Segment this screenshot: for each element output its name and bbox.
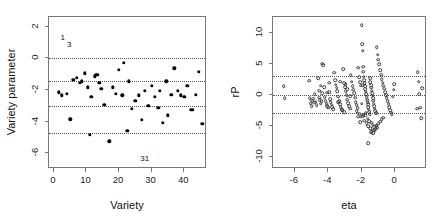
x-tick (53, 168, 54, 172)
data-point (173, 67, 176, 70)
data-point (147, 104, 150, 107)
data-point (378, 69, 382, 73)
y-tick-label: 0 (254, 91, 264, 96)
data-point (75, 76, 78, 79)
data-point (169, 93, 172, 96)
data-point (391, 95, 395, 99)
figure-container: 1331 01020304020-2-4-6 Variety Variety p… (0, 0, 439, 224)
data-point (134, 99, 137, 102)
data-point (65, 92, 68, 95)
data-point (361, 65, 365, 69)
x-axis-title-left: Variety (110, 200, 143, 211)
data-point (150, 84, 153, 87)
y-tick-label: 0 (30, 55, 40, 60)
data-point (350, 80, 354, 84)
data-point (346, 87, 350, 91)
y-tick (269, 32, 273, 33)
panel-variety-parameter: 1331 01020304020-2-4-6 Variety Variety p… (0, 0, 219, 224)
plot-box-left: 1331 (48, 16, 206, 168)
data-point (197, 70, 200, 73)
data-point (88, 133, 91, 136)
data-point (83, 72, 86, 75)
data-point (379, 73, 383, 77)
annotation-3: 3 (67, 41, 71, 49)
data-point (166, 113, 169, 116)
y-tick-label: -5 (254, 120, 264, 128)
y-tick-label: 5 (254, 60, 264, 65)
data-point (310, 105, 314, 109)
data-point (186, 84, 189, 87)
data-point (315, 103, 319, 107)
reference-line-2 (49, 106, 205, 107)
data-point (357, 66, 361, 70)
y-tick-label: -4 (30, 116, 40, 124)
data-point (165, 79, 168, 82)
data-point (130, 107, 133, 110)
x-tick-label: 30 (145, 175, 156, 185)
x-tick (394, 168, 395, 172)
y-tick-label: -10 (254, 149, 264, 163)
x-tick-label: -6 (290, 175, 298, 185)
data-point (282, 85, 286, 89)
data-point (332, 71, 336, 75)
x-tick (183, 168, 184, 172)
data-point (307, 79, 311, 83)
data-point (316, 77, 320, 81)
panel-rp-eta: -6-4-201050-5-10 eta rP (219, 0, 439, 224)
plot-box-right (272, 16, 426, 168)
data-point (348, 94, 352, 98)
data-point (420, 86, 424, 90)
data-point (321, 92, 325, 96)
data-point (336, 95, 340, 99)
y-tick (269, 125, 273, 126)
x-tick-label: 0 (392, 175, 397, 185)
x-tick-label: -2 (356, 175, 364, 185)
data-point (364, 111, 368, 115)
data-point (200, 122, 203, 125)
data-point (98, 81, 101, 84)
x-tick (85, 168, 86, 172)
data-point (80, 79, 83, 82)
data-point (122, 61, 125, 64)
data-point (117, 68, 120, 71)
data-point (99, 87, 102, 90)
y-tick (269, 63, 273, 64)
data-point (182, 95, 185, 98)
y-tick (269, 94, 273, 95)
y-tick (45, 152, 49, 153)
data-point (60, 94, 63, 97)
data-point (161, 121, 164, 124)
x-tick-label: 40 (178, 175, 189, 185)
y-tick (45, 121, 49, 122)
data-point (416, 70, 420, 74)
data-point (114, 92, 117, 95)
data-point (377, 58, 381, 62)
data-point (319, 84, 323, 88)
data-point (342, 67, 346, 71)
data-point (392, 88, 396, 92)
data-point (158, 89, 161, 92)
y-tick (45, 26, 49, 27)
data-point (108, 140, 111, 143)
data-point (111, 86, 114, 89)
data-point (353, 96, 357, 100)
data-point (348, 107, 352, 111)
data-point (360, 102, 364, 106)
data-point (419, 106, 423, 110)
data-point (321, 64, 325, 68)
data-point (320, 100, 324, 104)
data-area-right (273, 17, 425, 167)
data-point (376, 126, 380, 130)
data-point (137, 94, 140, 97)
data-point (140, 118, 143, 121)
data-point (143, 89, 146, 92)
data-point (375, 46, 379, 50)
annotation-31: 31 (140, 155, 149, 163)
data-point (86, 86, 89, 89)
data-point (362, 70, 366, 74)
data-point (360, 43, 364, 47)
data-point (333, 78, 337, 82)
y-tick (45, 89, 49, 90)
data-point (153, 95, 156, 98)
data-point (336, 90, 340, 94)
